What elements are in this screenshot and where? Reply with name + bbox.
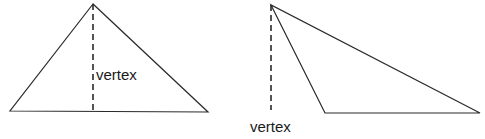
diagram-canvas: vertex vertex bbox=[0, 0, 485, 139]
obtuse-triangle-label: vertex bbox=[250, 119, 291, 134]
obtuse-triangle bbox=[271, 5, 480, 113]
triangles-svg bbox=[0, 0, 485, 139]
acute-triangle-label: vertex bbox=[96, 67, 137, 82]
acute-triangle bbox=[10, 4, 208, 112]
